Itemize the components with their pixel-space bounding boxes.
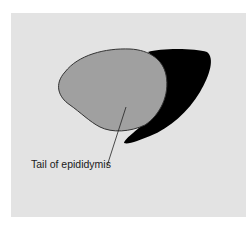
diagram-illustration	[0, 0, 251, 233]
tail-of-epididymis-label: Tail of epididymis	[31, 158, 111, 170]
testis-shape	[59, 49, 167, 131]
